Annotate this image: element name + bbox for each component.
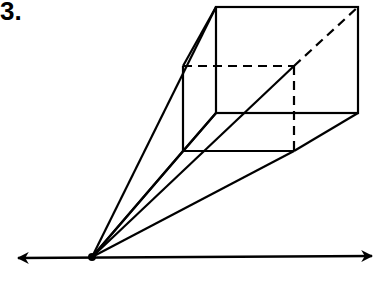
vp-line-diagonal xyxy=(92,66,294,257)
vanishing-point xyxy=(88,253,96,261)
edge-bottom-right xyxy=(294,113,358,151)
edge-top-right-hidden xyxy=(294,7,358,66)
vp-line-top-left xyxy=(92,7,216,257)
vp-line-bottom-right xyxy=(92,151,294,257)
front-face xyxy=(216,7,358,113)
perspective-diagram xyxy=(0,0,376,283)
vp-line-bottom-left xyxy=(92,113,216,257)
horizon-line xyxy=(18,256,372,258)
